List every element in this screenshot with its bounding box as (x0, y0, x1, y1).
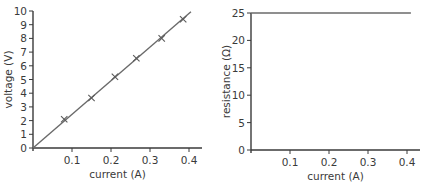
data-point-marker (133, 55, 139, 61)
x-axis-label: current (A) (307, 170, 364, 182)
y-tick-label: 2 (20, 115, 27, 127)
y-tick-label: 5 (20, 74, 27, 86)
y-tick-label: 1 (20, 128, 27, 140)
y-tick-label: 20 (232, 34, 245, 46)
y-tick-label: 4 (20, 87, 27, 99)
x-tick-label: 0.3 (360, 156, 377, 168)
y-tick-label: 10 (232, 89, 245, 101)
y-axis-label: resistance (Ω) (220, 45, 232, 118)
y-tick-label: 9 (20, 19, 27, 31)
data-point-marker (112, 74, 118, 80)
y-tick-label: 3 (20, 101, 27, 113)
y-tick-label: 8 (20, 32, 27, 44)
y-tick-label: 5 (238, 117, 245, 129)
x-tick-label: 0.2 (103, 154, 120, 166)
y-tick-label: 25 (232, 7, 245, 19)
x-tick-label: 0.3 (142, 154, 159, 166)
y-axis-label: voltage (V) (2, 51, 14, 109)
y-tick-label: 0 (20, 142, 27, 154)
x-axis-label: current (A) (89, 168, 146, 180)
x-tick-label: 0.1 (64, 154, 81, 166)
y-tick-label: 0 (238, 144, 245, 156)
resistance-current-chart: current (A) resistance (Ω) 05101520250.1… (220, 7, 420, 182)
figure: current (A) voltage (V) 0123456789100.10… (0, 0, 422, 186)
y-tick-label: 7 (20, 46, 27, 58)
y-tick-label: 6 (20, 60, 27, 72)
y-tick-label: 10 (14, 5, 27, 17)
data-point-marker (180, 16, 186, 22)
x-tick-label: 0.1 (282, 156, 299, 168)
x-tick-label: 0.4 (399, 156, 416, 168)
x-tick-label: 0.4 (181, 154, 198, 166)
data-point-marker (88, 95, 94, 101)
voltage-current-chart: current (A) voltage (V) 0123456789100.10… (2, 5, 202, 180)
x-tick-label: 0.2 (321, 156, 338, 168)
y-tick-label: 15 (232, 62, 245, 74)
